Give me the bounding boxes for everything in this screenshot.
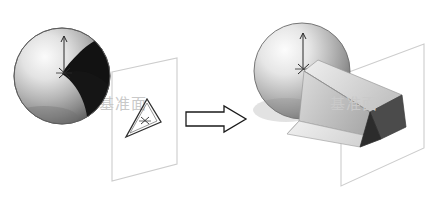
watermark-left: 基准面 bbox=[99, 95, 147, 113]
profile-center-marker bbox=[139, 117, 151, 124]
before-state: 基准面 bbox=[10, 28, 177, 181]
transition-arrow bbox=[186, 106, 246, 132]
watermark-right: 基准面 bbox=[330, 95, 378, 113]
cad-illustration-figure: 基准面 bbox=[0, 0, 436, 205]
after-state: 基准面 bbox=[253, 23, 424, 186]
sphere-before bbox=[10, 28, 120, 132]
illustration-canvas: 基准面 bbox=[0, 0, 436, 205]
